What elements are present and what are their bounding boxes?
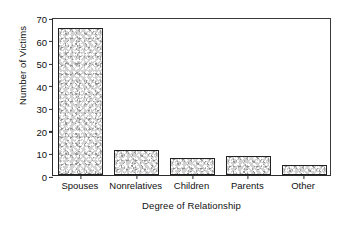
x-axis-tick-mark xyxy=(192,175,193,179)
bar xyxy=(58,28,103,175)
x-axis-tick-label: Parents xyxy=(231,180,264,191)
bar xyxy=(170,158,215,175)
bar xyxy=(114,150,159,175)
x-axis-tick-mark xyxy=(80,175,81,179)
y-axis-title: Number of Victims xyxy=(17,0,28,136)
x-axis-tick-label: Nonrelatives xyxy=(109,180,162,191)
x-axis-title: Degree of Relationship xyxy=(52,200,331,211)
y-axis-tick-label: 10 xyxy=(36,149,53,160)
y-axis-tick-label: 0 xyxy=(42,172,53,183)
bar-chart-figure: Number of Victims 010203040506070 Degree… xyxy=(0,0,349,225)
bar xyxy=(282,165,327,175)
y-axis-tick-label: 70 xyxy=(36,14,53,25)
x-axis-tick-mark xyxy=(248,175,249,179)
y-axis-tick-label: 50 xyxy=(36,59,53,70)
x-axis-tick-label: Spouses xyxy=(61,180,98,191)
y-axis-tick-label: 20 xyxy=(36,126,53,137)
plot-area: 010203040506070 xyxy=(52,18,331,176)
y-axis-tick-label: 30 xyxy=(36,104,53,115)
y-axis-tick-label: 60 xyxy=(36,36,53,47)
x-axis-tick-mark xyxy=(136,175,137,179)
x-axis-tick-label: Other xyxy=(291,180,315,191)
x-axis-tick-label: Children xyxy=(174,180,209,191)
x-axis-tick-mark xyxy=(304,175,305,179)
bar xyxy=(226,156,271,175)
y-axis-tick-label: 40 xyxy=(36,81,53,92)
